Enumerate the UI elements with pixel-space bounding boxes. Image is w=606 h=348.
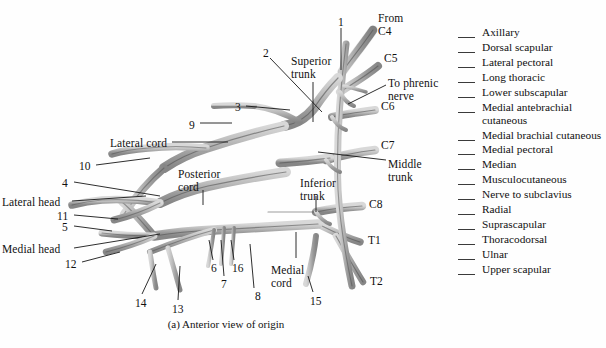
blank-line-icon[interactable] <box>458 159 475 170</box>
legend-item-label: Nerve to subclavius <box>482 188 572 201</box>
callout-number-8: 8 <box>255 290 261 303</box>
blank-line-icon[interactable] <box>458 130 475 141</box>
label-to-phrenic-nerve: To phrenic nerve <box>388 77 438 103</box>
legend-item-label: Lower subscapular <box>482 86 568 99</box>
legend-item[interactable]: Radial <box>458 203 606 216</box>
legend-item[interactable]: Upper scapular <box>458 263 606 276</box>
root-label-c7: C7 <box>381 139 395 152</box>
root-label-t1: T1 <box>368 234 381 247</box>
legend-item[interactable]: Medial pectoral <box>458 143 606 156</box>
legend-item[interactable]: Ulnar <box>458 248 606 261</box>
root-label-c5: C5 <box>384 52 398 65</box>
label-middle-trunk: Middle trunk <box>388 158 422 184</box>
blank-line-icon[interactable] <box>458 27 475 38</box>
callout-number-14: 14 <box>135 297 147 310</box>
label-lateral-cord: Lateral cord <box>110 137 167 150</box>
legend-item[interactable]: Medial brachial cutaneous <box>458 129 606 142</box>
callout-number-13: 13 <box>172 303 184 316</box>
legend-item[interactable]: Thoracodorsal <box>458 233 606 246</box>
legend-item[interactable]: Lower subscapular <box>458 86 606 99</box>
blank-line-icon[interactable] <box>458 219 475 230</box>
legend-item[interactable]: Median <box>458 158 606 171</box>
blank-line-icon[interactable] <box>458 174 475 185</box>
label-superior-trunk: Superior trunk <box>291 55 331 81</box>
blank-line-icon[interactable] <box>458 42 475 53</box>
legend-item-label: Ulnar <box>482 248 508 261</box>
callout-number-7: 7 <box>221 278 227 291</box>
root-label-from-c4: From C4 <box>378 12 403 38</box>
figure-caption: (a) Anterior view of origin <box>0 318 452 330</box>
callout-number-5: 5 <box>62 221 68 234</box>
legend-item[interactable]: Axillary <box>458 26 606 39</box>
callout-number-12: 12 <box>65 258 77 271</box>
legend-item-label: Lateral pectoral <box>482 56 553 69</box>
label-posterior-cord: Posterior cord <box>178 168 220 194</box>
nerve-legend-list: Axillary Dorsal scapular Lateral pectora… <box>458 26 606 278</box>
callout-number-4: 4 <box>62 177 68 190</box>
legend-item-label: Median <box>482 158 517 171</box>
blank-line-icon[interactable] <box>458 189 475 200</box>
blank-line-icon[interactable] <box>458 204 475 215</box>
callout-number-1: 1 <box>338 16 344 29</box>
label-inferior-trunk: Inferior trunk <box>300 177 336 203</box>
blank-line-icon[interactable] <box>458 144 475 155</box>
blank-line-icon[interactable] <box>458 234 475 245</box>
nerve-trunks-group <box>72 30 378 290</box>
legend-item-label: Axillary <box>482 26 520 39</box>
label-medial-cord: Medial cord <box>271 264 304 290</box>
legend-item-label: Medial antebrachial cutaneous <box>482 101 606 126</box>
blank-line-icon[interactable] <box>458 102 475 113</box>
callout-number-15: 15 <box>310 295 322 308</box>
callout-number-11: 11 <box>57 210 68 223</box>
legend-item[interactable]: Medial antebrachial cutaneous <box>458 101 606 126</box>
callout-number-9: 9 <box>189 119 195 132</box>
callout-number-6: 6 <box>211 262 217 275</box>
blank-line-icon[interactable] <box>458 72 475 83</box>
legend-item-label: Medial brachial cutaneous <box>482 129 601 142</box>
legend-item-label: Musculocutaneous <box>482 173 567 186</box>
callout-number-10: 10 <box>79 160 91 173</box>
figure-page: From C4 C5 C6 C7 C8 T1 T2 Superior trunk… <box>0 0 606 348</box>
legend-item-label: Suprascapular <box>482 218 546 231</box>
legend-item-label: Radial <box>482 203 512 216</box>
legend-item[interactable]: Lateral pectoral <box>458 56 606 69</box>
legend-item-label: Long thoracic <box>482 71 545 84</box>
root-label-c8: C8 <box>369 198 383 211</box>
blank-line-icon[interactable] <box>458 87 475 98</box>
label-lateral-head: Lateral head <box>2 196 60 209</box>
legend-item[interactable]: Musculocutaneous <box>458 173 606 186</box>
legend-item-label: Dorsal scapular <box>482 41 553 54</box>
callout-number-16: 16 <box>232 262 244 275</box>
legend-item[interactable]: Long thoracic <box>458 71 606 84</box>
root-label-t2: T2 <box>370 275 383 288</box>
legend-item[interactable]: Nerve to subclavius <box>458 188 606 201</box>
legend-item[interactable]: Dorsal scapular <box>458 41 606 54</box>
blank-line-icon[interactable] <box>458 57 475 68</box>
legend-item[interactable]: Suprascapular <box>458 218 606 231</box>
blank-line-icon[interactable] <box>458 249 475 260</box>
brachial-plexus-diagram: From C4 C5 C6 C7 C8 T1 T2 Superior trunk… <box>0 0 452 348</box>
callout-number-2: 2 <box>263 47 269 60</box>
callout-number-3: 3 <box>235 101 241 114</box>
legend-item-label: Upper scapular <box>482 263 551 276</box>
legend-item-label: Thoracodorsal <box>482 233 547 246</box>
blank-line-icon[interactable] <box>458 264 475 275</box>
legend-item-label: Medial pectoral <box>482 143 553 156</box>
label-medial-head: Medial head <box>2 243 60 256</box>
